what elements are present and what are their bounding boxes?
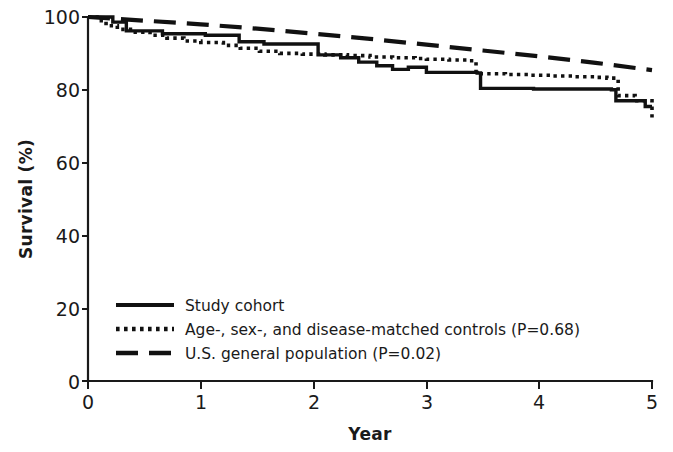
chart-legend: Study cohort Age-, sex-, and disease-mat… xyxy=(116,297,580,363)
legend-label-matched-controls: Age-, sex-, and disease-matched controls… xyxy=(185,321,580,339)
series-study-cohort xyxy=(88,17,652,107)
x-axis-ticks xyxy=(88,381,652,389)
x-tick-label-3: 3 xyxy=(421,391,433,413)
y-tick-label-60: 60 xyxy=(56,152,80,174)
legend-label-study-cohort: Study cohort xyxy=(185,297,284,315)
y-tick-label-20: 20 xyxy=(56,298,80,320)
plot-series-group xyxy=(88,17,652,117)
x-tick-label-2: 2 xyxy=(308,391,320,413)
x-tick-label-1: 1 xyxy=(195,391,207,413)
x-tick-label-4: 4 xyxy=(533,391,545,413)
survival-curve-figure: 100 80 60 40 20 0 0 xyxy=(0,0,673,452)
y-axis-tick-labels: 100 80 60 40 20 0 xyxy=(44,6,80,393)
x-axis-tick-labels: 0 1 2 3 4 5 xyxy=(82,391,658,413)
x-tick-label-0: 0 xyxy=(82,391,94,413)
x-tick-label-5: 5 xyxy=(646,391,658,413)
legend-label-us-population: U.S. general population (P=0.02) xyxy=(185,345,441,363)
y-axis-title: Survival (%) xyxy=(16,139,36,259)
chart-canvas: 100 80 60 40 20 0 0 xyxy=(0,0,673,452)
y-tick-label-80: 80 xyxy=(56,79,80,101)
y-tick-label-40: 40 xyxy=(56,225,80,247)
x-axis-title: Year xyxy=(347,424,392,444)
y-tick-label-100: 100 xyxy=(44,6,80,28)
y-tick-label-0: 0 xyxy=(68,371,80,393)
